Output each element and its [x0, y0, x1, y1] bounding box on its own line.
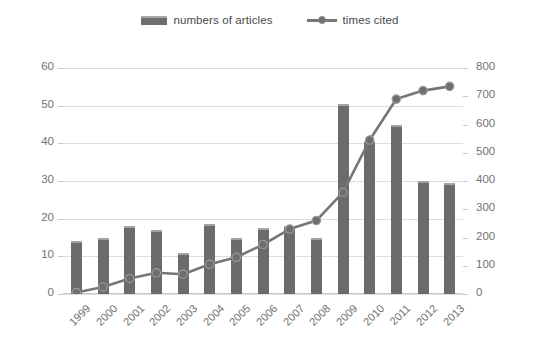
y-axis-left-tick-label: 0 [14, 286, 54, 298]
x-axis-tick-label: 2003 [167, 302, 200, 335]
chart-legend: numbers of articles times cited [0, 14, 540, 26]
y-axis-right-tick-label: 300 [476, 201, 516, 213]
line-marker: 2011: 690 [392, 95, 400, 103]
x-axis-tick-label: 2011 [380, 302, 413, 335]
y-axis-right-tick [463, 153, 468, 154]
x-axis-tick-label: 2001 [114, 302, 147, 335]
legend-item-times-cited: times cited [307, 14, 399, 26]
times-cited-line: 1999: 52000: 252001: 552002: 752003: 702… [63, 68, 463, 294]
y-axis-right-tick-label: 500 [476, 145, 516, 157]
x-axis-tick-label: 2010 [354, 302, 387, 335]
line-marker: 2002: 75 [152, 269, 160, 277]
y-axis-right-tick-label: 200 [476, 230, 516, 242]
line-marker: 2012: 720 [419, 86, 427, 94]
legend-label-times-cited: times cited [343, 14, 399, 26]
y-axis-left-tick-label: 50 [14, 98, 54, 110]
x-axis-tick-label: 2009 [327, 302, 360, 335]
line-marker: 2010: 545 [365, 136, 373, 144]
legend-label-articles: numbers of articles [173, 14, 272, 26]
line-marker: 2005: 130 [232, 253, 240, 261]
line-marker: 2001: 55 [125, 274, 133, 282]
line-series-times-cited: 1999: 52000: 252001: 552002: 752003: 702… [63, 68, 463, 294]
y-axis-right-tick [463, 181, 468, 182]
y-axis-right-tick [463, 125, 468, 126]
line-marker: 2007: 230 [285, 225, 293, 233]
line-marker: 2006: 175 [259, 240, 267, 248]
x-axis-tick-label: 2005 [220, 302, 253, 335]
y-axis-left-tick-label: 10 [14, 248, 54, 260]
y-axis-right-tick-label: 400 [476, 173, 516, 185]
x-axis-tick-label: 2000 [87, 302, 120, 335]
line-marker: 2009: 360 [339, 188, 347, 196]
gridline [63, 294, 463, 295]
x-axis-tick-label: 1999 [60, 302, 93, 335]
x-axis-tick-label: 2006 [247, 302, 280, 335]
y-axis-left-tick-label: 40 [14, 135, 54, 147]
x-axis-labels: 1999200020012002200320042005200620072008… [63, 296, 463, 356]
y-axis-right-tick-label: 600 [476, 117, 516, 129]
y-axis-right-tick-label: 800 [476, 60, 516, 72]
y-axis-right-tick [463, 238, 468, 239]
y-axis-right-tick [463, 68, 468, 69]
line-path [76, 86, 449, 292]
line-marker: 2008: 260 [312, 216, 320, 224]
x-axis-tick-label: 2008 [300, 302, 333, 335]
y-axis-right-tick-label: 100 [476, 258, 516, 270]
plot-area: 1999: 52000: 252001: 552002: 752003: 702… [63, 68, 463, 294]
y-axis-right-tick [463, 294, 468, 295]
bar-swatch-icon [141, 16, 167, 25]
x-axis-tick-label: 2012 [407, 302, 440, 335]
y-axis-right-tick-label: 0 [476, 286, 516, 298]
x-axis-tick-label: 2004 [194, 302, 227, 335]
x-axis-tick-label: 2002 [140, 302, 173, 335]
chart-container: numbers of articles times cited 01020304… [0, 0, 540, 362]
y-axis-right-tick [463, 209, 468, 210]
line-marker: 2003: 70 [179, 270, 187, 278]
line-marker: 2013: 735 [445, 82, 453, 90]
legend-item-articles: numbers of articles [141, 14, 272, 26]
x-axis-tick-label: 2007 [274, 302, 307, 335]
y-axis-left-tick-label: 20 [14, 211, 54, 223]
y-axis-right-tick [463, 96, 468, 97]
x-axis-tick-label: 2013 [434, 302, 467, 335]
line-marker: 2004: 105 [205, 260, 213, 268]
line-marker: 2000: 25 [99, 283, 107, 291]
y-axis-right-tick [463, 266, 468, 267]
line-marker-icon [307, 15, 337, 25]
y-axis-left-tick-label: 30 [14, 173, 54, 185]
y-axis-right-tick-label: 700 [476, 88, 516, 100]
line-marker: 1999: 5 [72, 288, 80, 294]
y-axis-left-tick-label: 60 [14, 60, 54, 72]
